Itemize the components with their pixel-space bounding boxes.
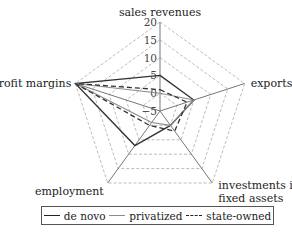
- legend-label: privatized: [129, 210, 182, 222]
- legend-item-privatized: privatized: [109, 210, 182, 222]
- tick-label: 15: [144, 34, 157, 46]
- legend-item-state-owned: state-owned: [186, 210, 271, 222]
- axis-label: profit margins: [0, 77, 72, 90]
- legend-swatch-gray: [109, 215, 125, 216]
- axis-line: [160, 83, 245, 111]
- legend-label: state-owned: [206, 210, 271, 222]
- tick-label: −5: [142, 105, 157, 117]
- axis-line: [108, 111, 160, 183]
- radar-chart: 20151050−5sales revenuesexportsinvestmen…: [0, 0, 292, 233]
- tick-label: 10: [144, 52, 157, 64]
- axis-line: [160, 111, 212, 183]
- axis-label: sales revenues: [119, 6, 202, 19]
- axis-label: exports: [251, 77, 292, 90]
- legend-swatch-dashed: [186, 215, 202, 216]
- legend-item-de-novo: de novo: [44, 210, 106, 222]
- axis-label: employment: [35, 185, 104, 198]
- legend-label: de novo: [64, 210, 106, 222]
- legend: de novo privatized state-owned: [41, 206, 274, 225]
- axis-label: fixed assets: [218, 192, 283, 205]
- legend-swatch-solid: [44, 215, 60, 216]
- axis-label: investments in: [218, 179, 292, 192]
